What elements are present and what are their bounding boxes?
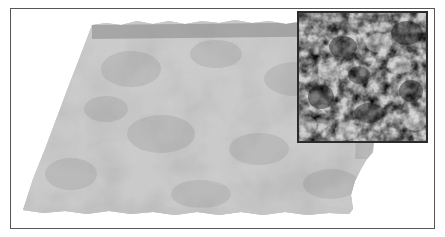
inset-panel (297, 11, 428, 143)
inset-heightmap (299, 13, 426, 141)
figure-root (0, 0, 445, 237)
